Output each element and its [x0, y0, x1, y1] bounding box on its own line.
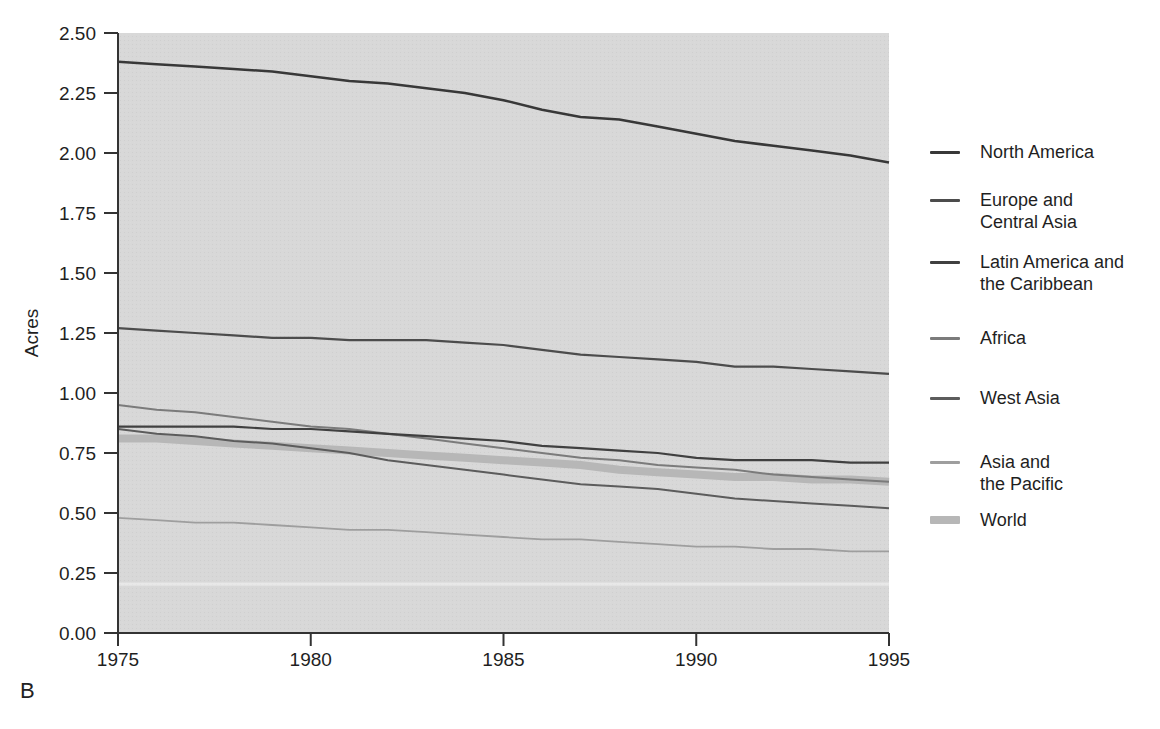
- legend-item-latin-america-and-the-caribbean: Latin America andthe Caribbean: [930, 251, 1124, 295]
- legend-label: Africa: [980, 327, 1026, 349]
- legend-label: North America: [980, 141, 1094, 163]
- legend-swatch: [930, 461, 960, 464]
- plot-area-texture: [118, 33, 889, 633]
- legend-swatch: [930, 337, 960, 340]
- legend-swatch: [930, 151, 960, 154]
- legend: North AmericaEurope andCentral AsiaLatin…: [930, 0, 1155, 600]
- legend-label: Latin America andthe Caribbean: [980, 251, 1124, 295]
- panel-letter: B: [20, 678, 35, 704]
- legend-label: West Asia: [980, 387, 1060, 409]
- y-tick-label: 1.00: [59, 383, 96, 404]
- y-tick-label: 0.50: [59, 503, 96, 524]
- legend-swatch: [930, 261, 960, 264]
- legend-item-west-asia: West Asia: [930, 387, 1060, 409]
- figure-panel: 2.502.252.001.751.501.251.000.750.500.25…: [0, 0, 1160, 729]
- y-tick-label: 0.75: [59, 443, 96, 464]
- legend-item-north-america: North America: [930, 141, 1094, 163]
- legend-item-asia-and-the-pacific: Asia andthe Pacific: [930, 451, 1063, 495]
- y-tick-label: 2.50: [59, 23, 96, 44]
- legend-swatch: [930, 199, 960, 202]
- y-tick-label: 0.25: [59, 563, 96, 584]
- x-tick-label: 1980: [290, 649, 332, 670]
- y-axis-title: Acres: [21, 309, 42, 358]
- y-tick-label: 1.75: [59, 203, 96, 224]
- x-tick-label: 1975: [97, 649, 139, 670]
- y-tick-label: 1.25: [59, 323, 96, 344]
- legend-item-africa: Africa: [930, 327, 1026, 349]
- y-tick-label: 1.50: [59, 263, 96, 284]
- y-tick-label: 2.00: [59, 143, 96, 164]
- legend-item-world: World: [930, 509, 1027, 531]
- legend-swatch: [930, 516, 960, 524]
- y-tick-label: 0.00: [59, 623, 96, 644]
- legend-label: Asia andthe Pacific: [980, 451, 1063, 495]
- legend-swatch: [930, 397, 960, 400]
- legend-label: Europe andCentral Asia: [980, 189, 1077, 233]
- legend-label: World: [980, 509, 1027, 531]
- y-tick-label: 2.25: [59, 83, 96, 104]
- scan-stripe: [118, 583, 889, 586]
- x-tick-label: 1995: [868, 649, 910, 670]
- legend-item-europe-and-central-asia: Europe andCentral Asia: [930, 189, 1077, 233]
- x-tick-label: 1985: [482, 649, 524, 670]
- x-tick-label: 1990: [675, 649, 717, 670]
